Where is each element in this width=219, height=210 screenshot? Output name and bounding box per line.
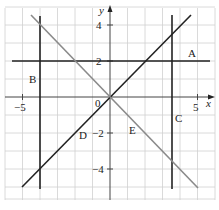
tick-y-neg4: −4 bbox=[92, 163, 104, 175]
tick-y-neg2: −2 bbox=[92, 127, 104, 139]
label-B: B bbox=[29, 73, 36, 85]
y-axis-arrow-icon bbox=[108, 5, 113, 12]
origin-label: 0 bbox=[95, 97, 101, 109]
label-D: D bbox=[79, 129, 87, 141]
line-E bbox=[31, 15, 198, 188]
tick-x-5: 5 bbox=[193, 101, 199, 113]
label-E: E bbox=[129, 124, 136, 136]
x-axis-label: x bbox=[205, 97, 211, 109]
tick-y-2: 2 bbox=[96, 55, 102, 67]
tick-y-4: 4 bbox=[96, 19, 102, 31]
label-A: A bbox=[188, 47, 196, 59]
coordinate-graph: x y 0 −5 5 4 2 −2 −4 A B C D E bbox=[0, 0, 219, 210]
graph-canvas: x y 0 −5 5 4 2 −2 −4 A B C D E bbox=[0, 0, 219, 210]
tick-x-neg5: −5 bbox=[14, 101, 26, 113]
axes bbox=[5, 5, 215, 200]
line-D bbox=[22, 15, 191, 187]
y-axis-label: y bbox=[98, 4, 104, 16]
label-C: C bbox=[175, 112, 182, 124]
labels: x y 0 −5 5 4 2 −2 −4 A B C D E bbox=[14, 4, 211, 175]
